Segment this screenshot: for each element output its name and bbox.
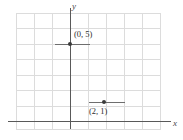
- grid-line-vertical: [142, 13, 143, 129]
- grid-line-horizontal: [16, 129, 161, 130]
- grid-line-horizontal: [16, 13, 161, 14]
- y-axis-line: [70, 8, 71, 129]
- grid-line-vertical: [160, 13, 161, 129]
- point-label-two: (2, 1): [89, 107, 107, 116]
- grid-line-vertical: [34, 13, 35, 129]
- coordinate-plane-figure: y x (0, 5) (2, 1): [0, 0, 183, 140]
- grid-line-vertical: [124, 13, 125, 129]
- grid-line-horizontal: [16, 90, 161, 91]
- grid-line-horizontal: [16, 59, 161, 60]
- grid-line-vertical: [52, 13, 53, 129]
- point-label-one: (0, 5): [74, 30, 92, 39]
- point-segment-one: [55, 44, 90, 45]
- grid-line-vertical: [16, 13, 17, 129]
- x-axis-label: x: [173, 119, 177, 128]
- grid-line-horizontal: [16, 75, 161, 76]
- point-marker-one: [68, 42, 72, 46]
- point-marker-two: [102, 100, 106, 104]
- x-axis-line: [8, 121, 171, 122]
- point-segment-two: [89, 102, 125, 103]
- y-axis-label: y: [72, 2, 76, 11]
